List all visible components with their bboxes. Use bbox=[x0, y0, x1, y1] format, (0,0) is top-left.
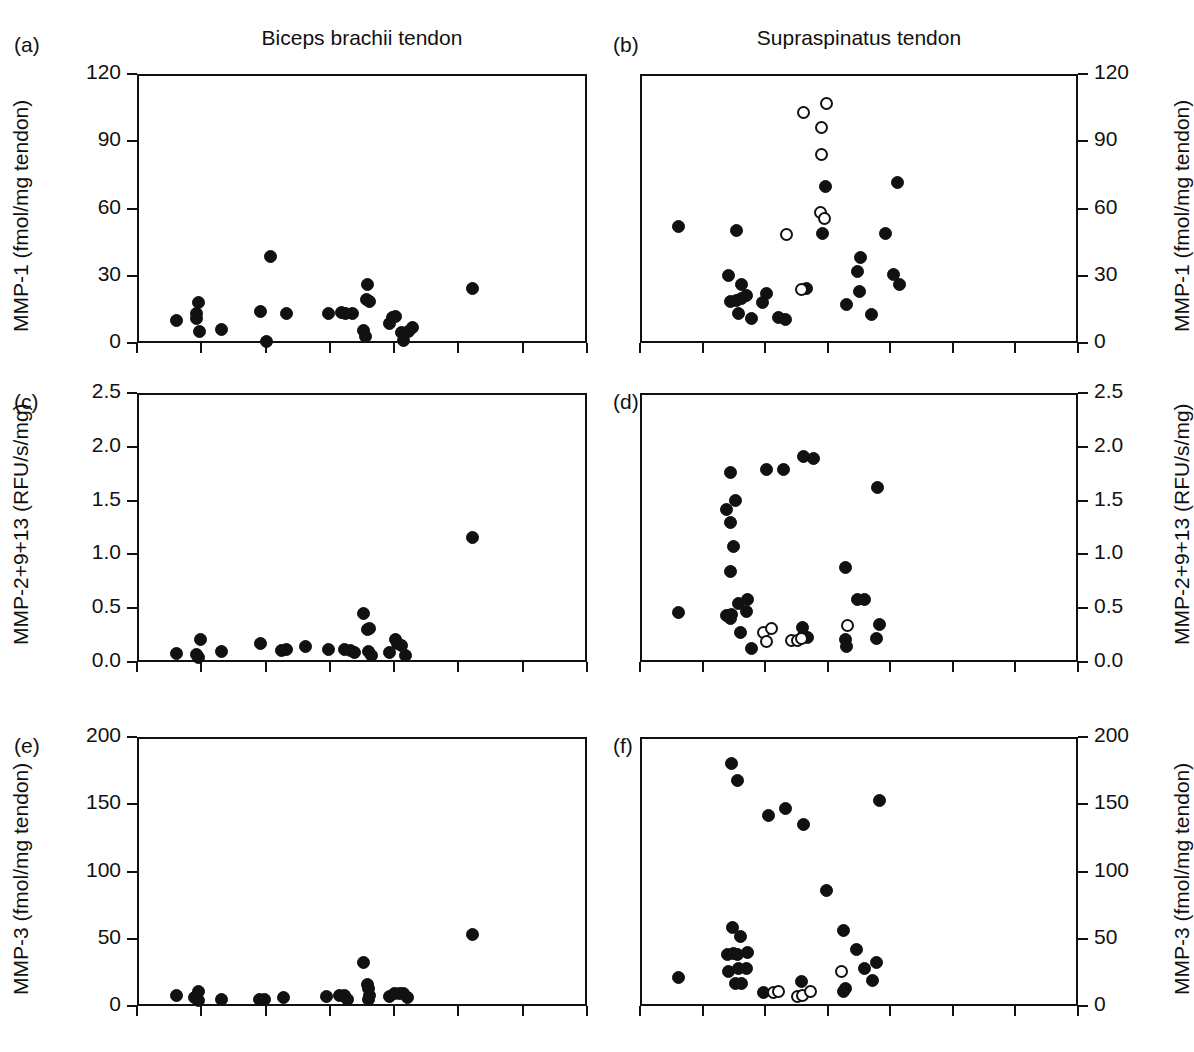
y-tick-label-4: 120 bbox=[1094, 60, 1129, 84]
y-axis-title-b: MMP-1 (fmol/mg tendon) bbox=[1170, 99, 1194, 331]
y-axis-title-f: MMP-3 (fmol/mg tendon) bbox=[1170, 762, 1194, 994]
y-tick-1 bbox=[127, 275, 137, 277]
x-tick-4 bbox=[393, 662, 395, 672]
open-circle-marker bbox=[835, 965, 848, 978]
y-tick-0 bbox=[127, 1005, 137, 1007]
filled-circle-marker bbox=[740, 962, 753, 975]
x-tick-2 bbox=[764, 662, 766, 672]
y-tick-label-2: 60 bbox=[1094, 195, 1117, 219]
filled-circle-marker bbox=[854, 251, 867, 264]
x-tick-4 bbox=[889, 343, 891, 353]
y-tick-4 bbox=[127, 736, 137, 738]
y-tick-4 bbox=[127, 73, 137, 75]
open-circle-marker bbox=[795, 632, 808, 645]
filled-circle-marker bbox=[870, 632, 883, 645]
x-tick-0 bbox=[639, 1006, 641, 1016]
filled-circle-marker bbox=[724, 516, 737, 529]
filled-circle-marker bbox=[873, 618, 886, 631]
y-tick-4 bbox=[1078, 446, 1088, 448]
y-tick-label-1: 30 bbox=[1094, 262, 1117, 286]
y-tick-5 bbox=[127, 392, 137, 394]
y-tick-label-5: 2.5 bbox=[51, 379, 121, 403]
x-tick-3 bbox=[329, 1006, 331, 1016]
x-tick-2 bbox=[764, 1006, 766, 1016]
filled-circle-marker bbox=[731, 774, 744, 787]
x-tick-4 bbox=[889, 662, 891, 672]
filled-circle-marker bbox=[816, 227, 829, 240]
panel-tag-b: (b) bbox=[613, 33, 639, 57]
y-tick-label-1: 0.5 bbox=[51, 594, 121, 618]
y-tick-4 bbox=[1078, 73, 1088, 75]
x-tick-5 bbox=[457, 1006, 459, 1016]
x-tick-5 bbox=[457, 662, 459, 672]
filled-circle-marker bbox=[741, 946, 754, 959]
x-tick-6 bbox=[522, 343, 524, 353]
y-tick-label-3: 1.5 bbox=[1094, 487, 1123, 511]
y-axis-title-d: MMP-2+9+13 (RFU/s/mg) bbox=[1170, 404, 1194, 646]
column-title-biceps: Biceps brachii tendon bbox=[137, 26, 587, 50]
y-tick-label-4: 2.0 bbox=[51, 433, 121, 457]
x-tick-0 bbox=[136, 1006, 138, 1016]
y-tick-label-0: 0 bbox=[51, 329, 121, 353]
x-tick-7 bbox=[1077, 1006, 1079, 1016]
y-tick-0 bbox=[1078, 661, 1088, 663]
y-tick-label-0: 0.0 bbox=[51, 648, 121, 672]
open-circle-marker bbox=[760, 635, 773, 648]
filled-circle-marker bbox=[735, 977, 748, 990]
filled-circle-marker bbox=[873, 794, 886, 807]
filled-circle-marker bbox=[720, 503, 733, 516]
open-circle-marker bbox=[797, 106, 810, 119]
x-tick-5 bbox=[457, 343, 459, 353]
filled-circle-marker bbox=[779, 802, 792, 815]
y-tick-2 bbox=[1078, 208, 1088, 210]
x-tick-4 bbox=[889, 1006, 891, 1016]
y-tick-label-0: 0 bbox=[1094, 329, 1106, 353]
filled-circle-marker bbox=[819, 180, 832, 193]
y-tick-label-0: 0 bbox=[1094, 992, 1106, 1016]
y-tick-label-3: 1.5 bbox=[51, 487, 121, 511]
y-tick-label-4: 200 bbox=[51, 723, 121, 747]
filled-circle-marker bbox=[359, 330, 372, 343]
x-tick-3 bbox=[329, 343, 331, 353]
x-tick-1 bbox=[200, 1006, 202, 1016]
x-tick-4 bbox=[393, 343, 395, 353]
filled-circle-marker bbox=[260, 335, 273, 348]
filled-circle-marker bbox=[254, 305, 267, 318]
filled-circle-marker bbox=[839, 561, 852, 574]
x-tick-1 bbox=[702, 662, 704, 672]
filled-circle-marker bbox=[280, 643, 293, 656]
x-tick-7 bbox=[586, 1006, 588, 1016]
open-circle-marker bbox=[804, 985, 817, 998]
filled-circle-marker bbox=[858, 962, 871, 975]
y-tick-2 bbox=[127, 871, 137, 873]
x-tick-7 bbox=[1077, 662, 1079, 672]
filled-circle-marker bbox=[820, 884, 833, 897]
y-tick-label-3: 150 bbox=[1094, 790, 1129, 814]
filled-circle-marker bbox=[879, 227, 892, 240]
x-tick-2 bbox=[265, 1006, 267, 1016]
y-tick-label-4: 2.0 bbox=[1094, 433, 1123, 457]
filled-circle-marker bbox=[756, 296, 769, 309]
y-tick-3 bbox=[1078, 803, 1088, 805]
filled-circle-marker bbox=[362, 993, 375, 1006]
x-tick-6 bbox=[522, 662, 524, 672]
open-circle-marker bbox=[820, 97, 833, 110]
x-tick-3 bbox=[827, 1006, 829, 1016]
y-tick-label-1: 50 bbox=[1094, 925, 1117, 949]
x-tick-6 bbox=[1014, 1006, 1016, 1016]
plot-area-d bbox=[640, 393, 1078, 662]
y-tick-3 bbox=[1078, 140, 1088, 142]
y-tick-label-2: 1.0 bbox=[51, 540, 121, 564]
plot-area-c bbox=[137, 393, 587, 662]
plot-area-b bbox=[640, 74, 1078, 343]
y-tick-label-1: 50 bbox=[51, 925, 121, 949]
x-tick-0 bbox=[639, 662, 641, 672]
y-tick-4 bbox=[1078, 736, 1088, 738]
y-tick-3 bbox=[127, 140, 137, 142]
y-tick-label-1: 30 bbox=[51, 262, 121, 286]
x-tick-1 bbox=[702, 343, 704, 353]
filled-circle-marker bbox=[734, 930, 747, 943]
panel-tag-d: (d) bbox=[613, 390, 639, 414]
x-tick-7 bbox=[1077, 343, 1079, 353]
